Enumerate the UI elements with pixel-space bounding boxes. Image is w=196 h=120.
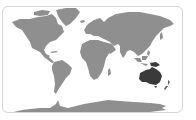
region-greenland xyxy=(56,8,80,26)
region-japan xyxy=(160,32,163,40)
region-south-america xyxy=(52,60,72,94)
region-british-isles xyxy=(86,25,89,30)
world-map xyxy=(0,0,196,120)
region-australia xyxy=(139,67,162,85)
region-caribbean xyxy=(50,51,58,53)
region-madagascar xyxy=(108,68,111,76)
region-new-guinea xyxy=(150,62,160,67)
region-india xyxy=(120,46,128,58)
region-arctic-islands xyxy=(34,10,50,16)
region-tasmania xyxy=(154,86,157,88)
region-central-america xyxy=(40,52,54,63)
region-antarctica xyxy=(14,100,166,112)
region-iceland xyxy=(80,20,85,23)
region-new-zealand xyxy=(164,80,170,90)
